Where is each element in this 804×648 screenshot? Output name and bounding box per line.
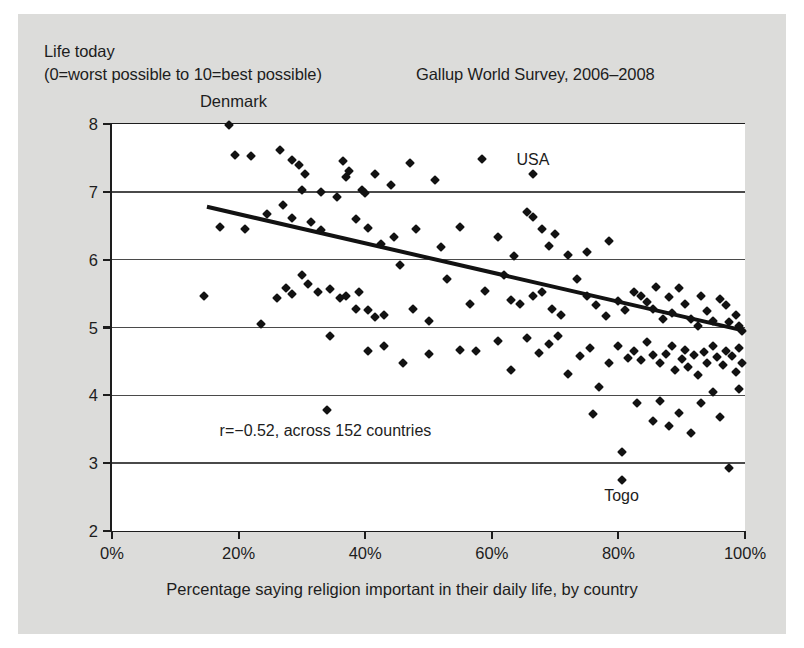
scatter-point xyxy=(674,408,684,418)
scatter-point xyxy=(708,342,718,352)
scatter-point xyxy=(661,349,671,359)
scatter-point xyxy=(683,362,693,372)
scatter-point xyxy=(395,260,405,270)
scatter-point xyxy=(370,312,380,322)
annotation-denmark: Denmark xyxy=(200,92,267,111)
scatter-point xyxy=(642,337,652,347)
scatter-point xyxy=(287,213,297,223)
x-axis-tick xyxy=(617,531,619,539)
scatter-point xyxy=(724,317,734,327)
scatter-point xyxy=(528,169,538,179)
y-axis-title-line2: (0=worst possible to 10=best possible) xyxy=(44,65,322,84)
scatter-point xyxy=(550,229,560,239)
scatter-point xyxy=(686,428,696,438)
scatter-point xyxy=(537,224,547,234)
scatter-point xyxy=(379,342,389,352)
scatter-point xyxy=(667,341,677,351)
scatter-point xyxy=(648,350,658,360)
scatter-point xyxy=(636,355,646,365)
scatter-point xyxy=(623,353,633,363)
scatter-point xyxy=(582,291,592,301)
scatter-point xyxy=(693,370,703,380)
y-axis-title-line1: Life today xyxy=(44,42,115,61)
scatter-point xyxy=(737,358,747,368)
x-axis-tick-label: 60% xyxy=(475,544,508,563)
gridline xyxy=(112,327,745,328)
scatter-point xyxy=(702,358,712,368)
scatter-point xyxy=(493,232,503,242)
scatter-point xyxy=(547,304,557,314)
plot-area: 2345678 0%20%40%60%80%100% r=−0.52, acro… xyxy=(110,123,745,532)
scatter-point xyxy=(424,316,434,326)
scatter-point xyxy=(667,308,677,318)
scatter-point xyxy=(455,345,465,355)
x-axis-tick xyxy=(744,531,746,539)
scatter-point xyxy=(534,348,544,358)
scatter-point xyxy=(696,291,706,301)
x-axis-tick-label: 80% xyxy=(602,544,635,563)
scatter-point xyxy=(313,287,323,297)
scatter-point xyxy=(297,270,307,280)
scatter-point xyxy=(405,158,415,168)
scatter-point xyxy=(506,365,516,375)
scatter-point xyxy=(655,358,665,368)
scatter-point xyxy=(500,270,510,280)
scatter-point xyxy=(537,287,547,297)
scatter-point xyxy=(465,299,475,309)
y-axis-tick-label: 7 xyxy=(89,184,98,201)
x-axis-tick xyxy=(491,531,493,539)
scatter-point xyxy=(648,416,658,426)
scatter-point xyxy=(664,292,674,302)
scatter-point xyxy=(617,447,627,457)
scatter-point xyxy=(696,399,706,409)
x-axis-tick-label: 40% xyxy=(349,544,382,563)
scatter-point xyxy=(731,310,741,320)
scatter-point xyxy=(613,296,623,306)
scatter-point xyxy=(677,354,687,364)
scatter-point xyxy=(563,369,573,379)
y-axis-tick xyxy=(103,530,111,532)
x-axis-tick xyxy=(238,531,240,539)
scatter-point xyxy=(544,241,554,251)
scatter-point xyxy=(515,299,525,309)
scatter-point xyxy=(724,463,734,473)
scatter-point xyxy=(658,314,668,324)
scatter-point xyxy=(351,304,361,314)
y-axis-tick xyxy=(103,191,111,193)
scatter-point xyxy=(632,399,642,409)
scatter-point xyxy=(708,316,718,326)
x-axis-tick-label: 0% xyxy=(100,544,124,563)
scatter-point xyxy=(585,343,595,353)
y-axis-tick-label: 5 xyxy=(89,319,98,336)
x-axis-tick-label: 100% xyxy=(724,544,766,563)
scatter-point xyxy=(370,169,380,179)
scatter-point xyxy=(338,156,348,166)
scatter-point xyxy=(664,421,674,431)
scatter-point xyxy=(674,283,684,293)
scatter-point xyxy=(712,352,722,362)
scatter-point xyxy=(306,217,316,227)
y-axis-tick-label: 6 xyxy=(89,251,98,268)
scatter-point xyxy=(246,151,256,161)
scatter-point xyxy=(430,175,440,185)
scatter-point xyxy=(240,224,250,234)
x-axis-tick-label: 20% xyxy=(222,544,255,563)
scatter-point xyxy=(699,347,709,357)
scatter-point xyxy=(477,154,487,164)
scatter-point xyxy=(322,405,332,415)
y-axis-tick-label: 8 xyxy=(89,116,98,133)
scatter-point xyxy=(604,236,614,246)
scatter-point xyxy=(481,286,491,296)
scatter-point xyxy=(379,310,389,320)
scatter-point xyxy=(670,365,680,375)
scatter-point xyxy=(325,284,335,294)
y-axis-tick xyxy=(103,326,111,328)
scatter-point xyxy=(680,299,690,309)
scatter-point xyxy=(360,188,370,198)
y-axis-tick-label: 3 xyxy=(89,455,98,472)
scatter-point xyxy=(553,331,563,341)
scatter-point xyxy=(424,349,434,359)
annotation-correlation: r=−0.52, across 152 countries xyxy=(220,422,432,440)
scatter-point xyxy=(275,145,285,155)
scatter-point xyxy=(651,282,661,292)
